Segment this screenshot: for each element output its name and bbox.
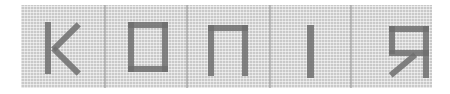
letter-pe: П: [208, 25, 248, 76]
cell-divider: [186, 5, 188, 88]
letter-i: І: [307, 25, 314, 78]
cell-divider: [269, 5, 271, 88]
letter-o: О: [128, 22, 168, 72]
cell-divider: [350, 5, 352, 88]
letter-k: К: [45, 22, 87, 74]
stamp-text: КОПІЯ: [21, 5, 22, 6]
cell-divider: [104, 5, 106, 88]
copy-stamp: КОПІЯ К О П І Я: [21, 5, 432, 88]
letter-ya: Я: [389, 26, 429, 78]
